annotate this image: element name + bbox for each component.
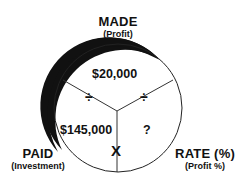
made-label-group: MADE (Profit) (85, 15, 151, 39)
rate-sublabel: (Profit %) (172, 162, 238, 171)
rate-value: ? (143, 124, 151, 137)
made-sublabel: (Profit) (85, 30, 151, 39)
rate-label-group: RATE (%) (Profit %) (172, 147, 238, 171)
paid-label-group: PAID (Investment) (4, 147, 72, 171)
divide-operator-left: ÷ (85, 90, 93, 104)
paid-value: $145,000 (60, 124, 112, 137)
divide-operator-right: ÷ (140, 90, 148, 104)
multiply-operator: X (111, 143, 121, 158)
paid-label: PAID (4, 147, 72, 160)
paid-sublabel: (Investment) (4, 162, 72, 171)
rate-label: RATE (%) (172, 147, 238, 160)
made-value: $20,000 (92, 68, 137, 81)
made-label: MADE (85, 15, 151, 28)
